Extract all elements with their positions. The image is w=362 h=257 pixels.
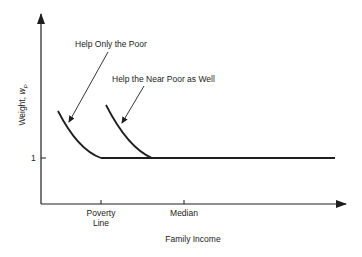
annotation-help-only-poor: Help Only the Poor (75, 39, 147, 49)
y-axis-title-variable: w (17, 88, 27, 94)
y-axis-title-word: Weight, (17, 97, 27, 126)
annotation-arrow-near-poor (122, 86, 144, 123)
x-tick-label-median: Median (170, 208, 198, 218)
y-tick-label-1: 1 (31, 153, 36, 163)
y-axis-title-subscript: P (23, 84, 29, 88)
annotation-arrow-poor (69, 52, 108, 122)
x-tick-label-poverty-line: Poverty Line (87, 208, 116, 228)
x-axis-title: Family Income (165, 234, 220, 244)
curve-help-only-poor (58, 111, 101, 158)
x-tick-label-poverty: Poverty (87, 208, 116, 218)
x-tick-label-line: Line (87, 218, 116, 228)
y-axis-title: Weight, wP (17, 84, 29, 125)
annotation-help-near-poor: Help the Near Poor as Well (112, 74, 215, 84)
curve-help-near-poor (106, 105, 152, 158)
chart-canvas (0, 0, 362, 257)
